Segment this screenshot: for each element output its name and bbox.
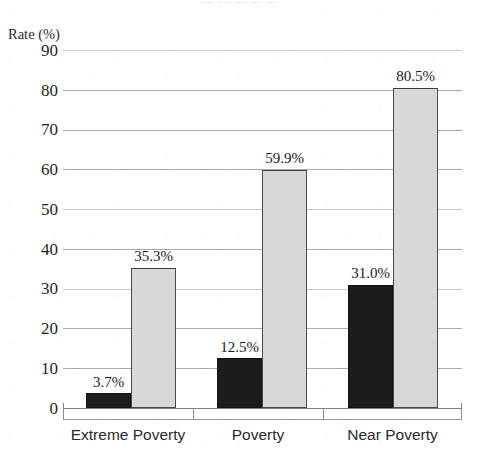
x-axis-tick-3 xyxy=(461,408,462,419)
bar-label-dark-extreme-poverty: 3.7% xyxy=(78,375,139,390)
y-tick-50: 50 xyxy=(16,201,58,218)
x-axis-label-near-poverty: Near Poverty xyxy=(323,426,462,444)
y-tick-80: 80 xyxy=(16,82,58,99)
y-tick-60: 60 xyxy=(16,161,58,178)
bar-light-poverty xyxy=(262,170,307,408)
bar-dark-near-poverty xyxy=(348,285,393,408)
bar-chart: — — — — — Rate (%) 90 80 70 60 50 40 30 … xyxy=(0,0,480,468)
bar-dark-extreme-poverty xyxy=(86,393,131,408)
y-tick-90: 90 xyxy=(16,42,58,59)
x-axis-tick-2 xyxy=(323,408,324,419)
bar-label-light-poverty: 59.9% xyxy=(253,151,316,166)
x-axis-segment-poverty xyxy=(193,419,323,420)
x-axis-label-poverty: Poverty xyxy=(193,426,323,444)
y-tick-30: 30 xyxy=(16,280,58,297)
y-tick-10: 10 xyxy=(16,360,58,377)
bar-light-extreme-poverty xyxy=(131,268,176,408)
y-tick-20: 20 xyxy=(16,320,58,337)
x-axis-tick-1 xyxy=(193,408,194,419)
y-tick-40: 40 xyxy=(16,241,58,258)
x-axis-tick-0 xyxy=(63,408,64,419)
clipped-title-remnant: — — — — — xyxy=(0,0,480,3)
x-axis-segment-near-poverty xyxy=(323,419,462,420)
bar-dark-poverty xyxy=(217,358,262,408)
y-axis-tick-labels: 90 80 70 60 50 40 30 20 10 0 xyxy=(8,0,58,468)
bar-light-near-poverty xyxy=(393,88,438,408)
x-axis-segment-extreme-poverty xyxy=(63,419,193,420)
x-axis-label-extreme-poverty: Extreme Poverty xyxy=(63,426,193,444)
bar-label-light-extreme-poverty: 35.3% xyxy=(122,249,185,264)
x-axis-line xyxy=(63,408,462,409)
gridline-90 xyxy=(63,50,462,51)
y-tick-70: 70 xyxy=(16,121,58,138)
bar-label-light-near-poverty: 80.5% xyxy=(384,69,447,84)
y-tick-0: 0 xyxy=(16,400,58,417)
